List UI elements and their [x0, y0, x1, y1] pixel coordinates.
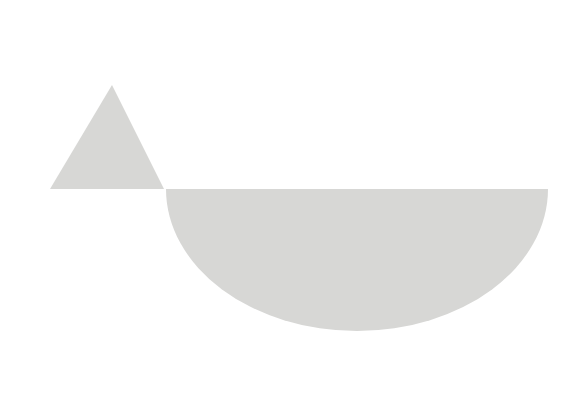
figure-svg	[0, 0, 585, 405]
composition-canvas	[0, 0, 585, 405]
